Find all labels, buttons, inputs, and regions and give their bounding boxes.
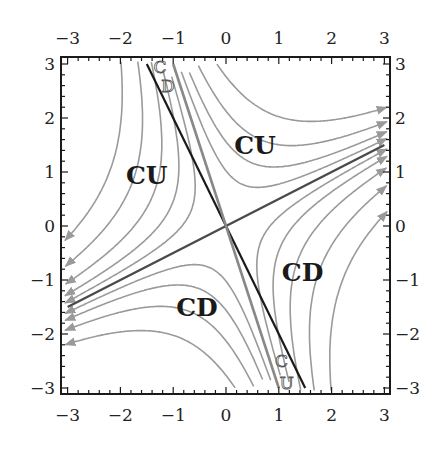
x-tick-label-top: 1 — [273, 28, 284, 48]
separatrix-lines — [68, 64, 385, 388]
x-tick-label-bottom: 0 — [221, 405, 232, 425]
annotation-letter: D — [161, 76, 175, 96]
phase-portrait-chart: CUCUCDCD CDCU −3−3−2−2−1−100112233332211… — [0, 0, 438, 452]
x-tick-label-bottom: −2 — [108, 405, 133, 425]
y-tick-label-left: 0 — [44, 216, 55, 236]
x-tick-label-bottom: 3 — [379, 405, 390, 425]
annotation-letter: C — [275, 351, 288, 371]
flow-trajectory — [65, 62, 122, 241]
y-tick-label-left: 1 — [44, 162, 55, 182]
y-tick-label-right: 1 — [395, 162, 406, 182]
stable-separatrix — [173, 64, 279, 388]
y-tick-label-right: 3 — [395, 54, 406, 74]
x-tick-label-top: 0 — [221, 28, 232, 48]
flow-trajectory — [181, 72, 386, 188]
y-tick-label-right: 2 — [395, 108, 406, 128]
y-tick-label-right: 0 — [395, 216, 406, 236]
annotation-letter: U — [280, 373, 294, 393]
region-label-cd: CD — [176, 293, 218, 322]
y-tick-label-right: −3 — [395, 378, 420, 398]
region-label-cu: CU — [126, 161, 168, 190]
region-label-cu: CU — [234, 131, 276, 160]
x-tick-label-top: −2 — [108, 28, 133, 48]
flow-trajectory — [330, 212, 387, 391]
x-tick-label-bottom: 1 — [273, 405, 284, 425]
y-tick-label-left: 2 — [44, 108, 55, 128]
x-tick-label-bottom: 2 — [326, 405, 337, 425]
y-tick-label-right: −2 — [395, 324, 420, 344]
flow-trajectory — [65, 265, 271, 381]
y-tick-label-left: 3 — [44, 54, 55, 74]
x-tick-label-top: 3 — [379, 28, 390, 48]
flow-trajectory — [65, 331, 235, 388]
y-tick-label-right: −1 — [395, 270, 420, 290]
x-tick-label-bottom: −3 — [55, 405, 80, 425]
annotation-letter: C — [153, 57, 166, 77]
x-tick-label-top: −1 — [161, 28, 186, 48]
y-tick-label-left: −3 — [30, 378, 55, 398]
x-tick-label-top: −3 — [55, 28, 80, 48]
x-tick-label-top: 2 — [326, 28, 337, 48]
flow-trajectory — [310, 186, 387, 391]
y-tick-label-left: −2 — [30, 324, 55, 344]
y-tick-label-left: −1 — [30, 270, 55, 290]
x-tick-label-bottom: −1 — [161, 405, 186, 425]
region-label-cd: CD — [282, 258, 324, 287]
flow-trajectory — [217, 64, 387, 121]
